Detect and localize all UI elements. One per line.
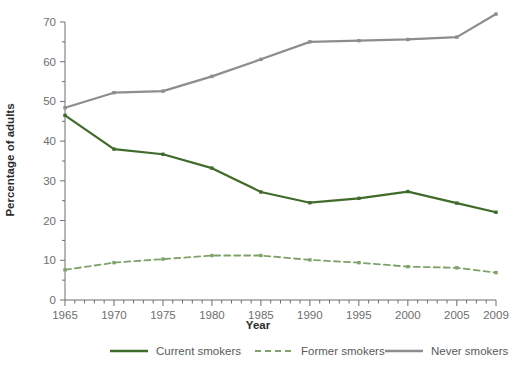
y-axis-tick-label: 0 xyxy=(50,294,56,306)
data-point-marker xyxy=(210,254,213,257)
y-axis-tick-label: 60 xyxy=(43,56,56,68)
data-point-marker xyxy=(308,201,311,204)
chart-canvas: 010203040506070 196519701975198019851990… xyxy=(0,0,526,371)
x-axis-title: Year xyxy=(246,319,271,331)
data-point-marker xyxy=(63,114,66,117)
data-point-marker xyxy=(210,75,213,78)
data-point-marker xyxy=(161,153,164,156)
legend-label-never-smokers: Never smokers xyxy=(431,345,509,357)
data-point-marker xyxy=(63,268,66,271)
data-point-marker xyxy=(494,12,497,15)
line-chart: 010203040506070 196519701975198019851990… xyxy=(0,0,526,371)
data-point-marker xyxy=(455,201,458,204)
y-axis-tick-label: 40 xyxy=(43,135,56,147)
data-point-marker xyxy=(494,271,497,274)
x-axis-tick-label: 2000 xyxy=(395,309,421,321)
data-point-marker xyxy=(406,265,409,268)
x-axis-tick-label: 2009 xyxy=(483,309,509,321)
data-point-marker xyxy=(357,261,360,264)
x-axis-tick-label: 1995 xyxy=(346,309,372,321)
data-point-marker xyxy=(112,91,115,94)
data-point-marker xyxy=(455,35,458,38)
data-point-marker xyxy=(308,258,311,261)
data-point-marker xyxy=(259,190,262,193)
data-point-marker xyxy=(357,39,360,42)
data-point-marker xyxy=(161,89,164,92)
x-axis-tick-label: 1990 xyxy=(297,309,323,321)
data-point-marker xyxy=(259,58,262,61)
y-axis-tick-label: 10 xyxy=(43,254,56,266)
y-axis-tick-label: 70 xyxy=(43,16,56,28)
legend-label-former-smokers: Former smokers xyxy=(301,345,385,357)
data-point-marker xyxy=(63,106,66,109)
data-point-marker xyxy=(494,211,497,214)
y-axis-tick-label: 50 xyxy=(43,95,56,107)
x-axis-tick-label: 1970 xyxy=(101,309,127,321)
data-point-marker xyxy=(112,261,115,264)
y-axis-tick-label: 30 xyxy=(43,175,56,187)
x-axis-tick-label: 1975 xyxy=(150,309,176,321)
chart-legend: Current smokersFormer smokersNever smoke… xyxy=(110,345,509,357)
data-point-marker xyxy=(406,190,409,193)
x-axis-tick-label: 1965 xyxy=(52,309,78,321)
data-point-marker xyxy=(406,38,409,41)
data-point-marker xyxy=(455,266,458,269)
data-point-marker xyxy=(161,257,164,260)
y-axis-title: Percentage of adults xyxy=(4,103,16,216)
x-axis-tick-label: 1980 xyxy=(199,309,225,321)
data-point-marker xyxy=(112,147,115,150)
data-point-marker xyxy=(210,166,213,169)
data-point-marker xyxy=(357,197,360,200)
x-axis-tick-label: 2005 xyxy=(444,309,470,321)
data-point-marker xyxy=(259,254,262,257)
data-point-marker xyxy=(308,40,311,43)
y-axis-tick-label: 20 xyxy=(43,215,56,227)
legend-label-current-smokers: Current smokers xyxy=(156,345,241,357)
